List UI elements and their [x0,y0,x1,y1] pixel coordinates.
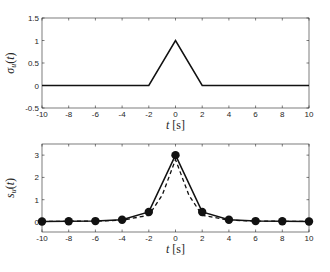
y-tick-label: 1.5 [28,14,40,23]
data-marker [91,217,99,225]
y-tick-label: -0.5 [25,104,39,113]
top-plot: -10-8-6-4-20246810-0.500.511.5t [s]σu(t) [3,14,314,132]
x-tick-label: -10 [36,234,48,243]
y-axis-label: su(t) [3,178,18,198]
series-line [42,155,309,221]
x-tick-label: -4 [119,234,127,243]
data-marker [305,217,313,225]
data-marker [38,217,46,225]
y-tick-label: 0.5 [28,59,40,68]
data-marker [118,216,126,224]
x-tick-label: -8 [65,110,73,119]
x-tick-label: 6 [253,234,258,243]
x-tick-label: 10 [305,110,314,119]
x-tick-label: 4 [227,110,232,119]
x-tick-label: -6 [92,234,100,243]
x-tick-label: -2 [145,110,153,119]
data-marker [251,217,259,225]
x-axis-label: t [s] [166,118,185,132]
data-marker [171,151,179,159]
x-tick-label: -2 [145,234,153,243]
data-marker [198,208,206,216]
x-tick-label: 10 [305,234,314,243]
series-line [42,160,309,222]
x-tick-label: -8 [65,234,73,243]
axes-box [42,18,309,108]
y-tick-label: 0 [35,82,40,91]
series-line [42,41,309,86]
y-tick-label: 2 [35,173,40,182]
x-tick-label: -6 [92,110,100,119]
chart: -10-8-6-4-20246810-0.500.511.5t [s]σu(t)… [0,0,330,272]
data-marker [145,208,153,216]
data-marker [65,217,73,225]
data-marker [225,216,233,224]
data-marker [278,217,286,225]
x-tick-label: 8 [280,110,285,119]
y-axis-label: σu(t) [3,52,18,73]
bottom-plot: -10-8-6-4-202468100123t [s]su(t) [3,144,314,256]
x-tick-label: 2 [200,234,205,243]
y-tick-label: 1 [35,37,40,46]
x-tick-label: 2 [200,110,205,119]
y-tick-label: 3 [35,151,40,160]
x-axis-label: t [s] [166,242,185,256]
x-tick-label: 8 [280,234,285,243]
x-tick-label: -4 [119,110,127,119]
x-tick-label: 4 [227,234,232,243]
y-tick-label: 1 [35,196,40,205]
x-tick-label: 6 [253,110,258,119]
